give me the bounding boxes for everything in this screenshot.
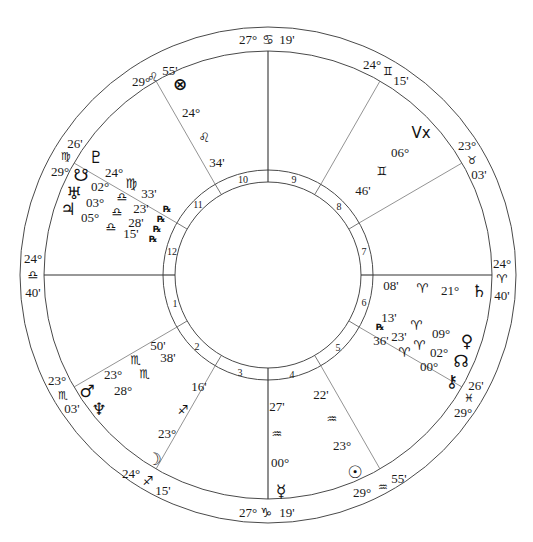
moon-minutes: 16'	[191, 380, 206, 393]
aries-sign-icon: ♈	[398, 345, 410, 360]
south-node-icon: ☋	[73, 167, 88, 184]
aquarius-sign-icon: ♒	[378, 480, 388, 495]
cusp-3-tick	[215, 356, 221, 366]
house-number-1: 1	[173, 299, 178, 309]
asc-degree: 24°	[24, 252, 42, 265]
uranus-degree: 03°	[86, 196, 104, 209]
house-number-3: 3	[238, 368, 243, 378]
virgo-sign-icon: ♍	[61, 149, 71, 164]
saturn-minutes: 08'	[383, 279, 398, 292]
house-number-6: 6	[362, 298, 367, 308]
pluto-icon: ♇	[88, 149, 103, 166]
cusp-2-degree: 23°	[48, 374, 66, 387]
cusp-11-tick	[215, 184, 221, 194]
fortune-minutes: 34'	[209, 156, 224, 169]
cusp-8-degree: 23°	[458, 139, 476, 152]
saturn-degree: 21°	[441, 284, 459, 297]
mercury-icon: ☿	[276, 483, 286, 500]
cusp-12-tick	[177, 223, 187, 229]
dsc-degree: 24°	[493, 257, 511, 270]
jupiter-degree: 05°	[81, 211, 99, 224]
neptune-minutes: 38'	[160, 351, 175, 364]
venus-icon: ♀	[461, 333, 473, 350]
neptune-icon: ♆	[91, 401, 106, 418]
south-node-retrograde-icon: ℞	[157, 215, 165, 224]
chiron-minutes: 36'	[373, 334, 388, 347]
north-node-retrograde-icon: ℞	[376, 323, 384, 332]
aquarius-sign-icon: ♒	[327, 412, 338, 427]
house-number-9: 9	[292, 175, 297, 185]
house-number-5: 5	[336, 343, 341, 353]
jupiter-minutes: 15'	[123, 227, 138, 240]
cusp-8-tick	[349, 223, 359, 229]
capricorn-sign-icon: ♑	[260, 505, 272, 520]
cusp-8-minutes: 03'	[471, 168, 486, 181]
cusp-6-tick	[349, 321, 359, 327]
jupiter-icon: ♃	[60, 201, 75, 218]
libra-sign-icon: ♎	[28, 268, 39, 283]
libra-sign-icon: ♎	[112, 205, 123, 220]
vertex-minutes: 46'	[355, 184, 370, 197]
dsc-minutes: 40'	[494, 289, 509, 302]
chiron-degree: 00°	[420, 360, 438, 373]
libra-sign-icon: ♎	[117, 190, 128, 205]
cusp-9-minutes: 15'	[393, 74, 408, 87]
mercury-degree: 00°	[271, 456, 289, 469]
venus-degree: 09°	[432, 327, 450, 340]
mc-degree: 27°	[239, 33, 257, 46]
ic-minutes: 19'	[279, 506, 294, 519]
aquarius-sign-icon: ♒	[272, 427, 283, 442]
house-number-2: 2	[195, 342, 200, 352]
cusp-9-line	[321, 81, 380, 184]
ic-degree: 27°	[239, 506, 257, 519]
vertex-degree: 06°	[391, 146, 409, 159]
house-number-11: 11	[193, 200, 203, 210]
cusp-9-tick	[315, 184, 321, 194]
north-node-degree: 02°	[430, 346, 448, 359]
pluto-degree: 24°	[105, 166, 123, 179]
cusp-5-minutes: 55'	[391, 472, 406, 485]
jupiter-retrograde-icon: ℞	[149, 235, 157, 244]
north-node-minutes: 23'	[391, 330, 406, 343]
cusp-6-degree: 29°	[454, 406, 472, 419]
virgo-sign-icon: ♍	[125, 176, 137, 191]
cusp-3-minutes: 15'	[155, 484, 170, 497]
gemini-sign-icon: ♊	[377, 164, 388, 179]
mercury-minutes: 27'	[269, 400, 284, 413]
house-number-8: 8	[337, 202, 342, 212]
cusp-2-minutes: 03'	[64, 402, 79, 415]
mars-degree: 23°	[104, 368, 122, 381]
pluto-retrograde-icon: ℞	[163, 205, 171, 214]
aries-sign-icon: ♈	[413, 338, 425, 353]
sun-icon: ☉	[347, 464, 362, 481]
fortune-degree: 24°	[182, 106, 200, 119]
south-node-minutes: 23'	[133, 202, 148, 215]
house-number-4: 4	[290, 370, 295, 380]
gemini-sign-icon: ♊	[383, 64, 393, 79]
asc-minutes: 40'	[25, 286, 40, 299]
cusp-9-degree: 24°	[363, 58, 381, 71]
cancer-sign-icon: ♋	[262, 32, 274, 47]
scorpio-sign-icon: ♏	[131, 353, 142, 368]
aries-sign-icon: ♈	[497, 272, 508, 287]
part-of-fortune-icon: ⊗	[173, 76, 187, 93]
cusp-12-degree: 29°	[51, 165, 69, 178]
leo-sign-icon: ♌	[148, 70, 159, 85]
aries-sign-icon: ♈	[416, 281, 428, 296]
chiron-icon: ⚷	[446, 373, 458, 390]
house-number-10: 10	[238, 175, 248, 185]
aries-sign-icon: ♈	[410, 318, 422, 333]
cusp-2-tick	[177, 321, 187, 327]
mc-minutes: 19'	[279, 33, 294, 46]
vertex-icon: Vx	[411, 126, 430, 141]
libra-sign-icon: ♎	[106, 220, 117, 235]
pisces-sign-icon: ♓	[464, 391, 474, 406]
cusp-5-tick	[315, 356, 321, 366]
house-number-12: 12	[167, 247, 177, 257]
cusp-5-degree: 29°	[353, 486, 371, 499]
sagittarius-sign-icon: ♐	[143, 474, 154, 489]
uranus-retrograde-icon: ℞	[153, 225, 161, 234]
moon-icon: ☽	[146, 451, 161, 468]
house-number-7: 7	[362, 247, 367, 257]
pluto-minutes: 33'	[141, 187, 156, 200]
